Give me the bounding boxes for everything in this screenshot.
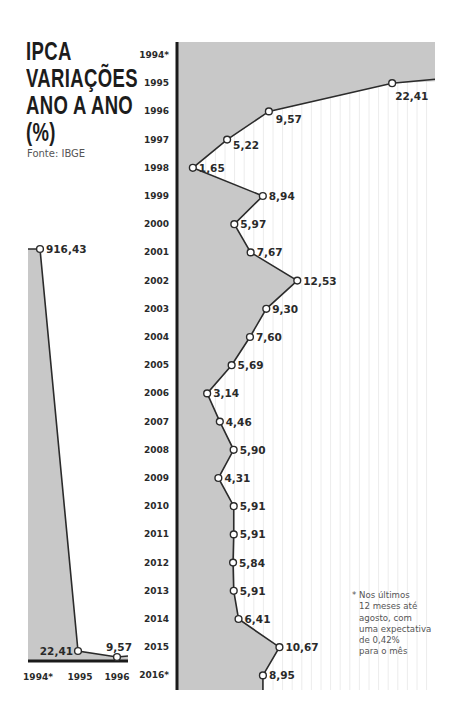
- year-label: 1998: [144, 163, 169, 173]
- value-label: 6,41: [245, 613, 271, 625]
- year-label: 2004: [144, 332, 169, 342]
- year-label: 1995: [144, 78, 169, 88]
- year-label: 2016*: [139, 670, 169, 680]
- footnote-line: agosto, com: [352, 613, 431, 624]
- value-label: 22,41: [395, 90, 428, 102]
- data-point: [216, 418, 223, 425]
- value-label: 5,84: [239, 557, 265, 569]
- data-point: [263, 305, 270, 312]
- year-label: 2009: [144, 473, 169, 483]
- value-label: 5,90: [240, 444, 266, 456]
- data-point: [235, 616, 242, 623]
- year-label: 2008: [144, 445, 169, 455]
- value-label: 9,57: [106, 641, 132, 653]
- value-label: 1,65: [199, 162, 225, 174]
- value-label: 5,97: [240, 218, 266, 230]
- data-point: [265, 108, 272, 115]
- year-label: 2014: [144, 614, 169, 624]
- data-point: [247, 334, 254, 341]
- data-point: [389, 80, 396, 87]
- data-point: [231, 221, 238, 228]
- year-label: 2011: [144, 529, 169, 539]
- value-label: 5,69: [238, 359, 264, 371]
- value-label: 4,31: [224, 472, 250, 484]
- value-label: 12,53: [303, 275, 336, 287]
- year-label: 2006: [144, 388, 169, 398]
- year-label: 1999: [144, 191, 169, 201]
- value-label: 5,91: [240, 585, 266, 597]
- value-label: 7,67: [257, 246, 283, 258]
- left-area-fill: [28, 249, 128, 661]
- year-label: 2010: [144, 501, 169, 511]
- data-point: [37, 246, 44, 253]
- footnote-line: para o mês: [352, 646, 431, 657]
- footnote-line: 12 meses até: [352, 601, 431, 612]
- data-point: [224, 136, 231, 143]
- data-point: [260, 672, 267, 679]
- year-label: 2005: [144, 360, 169, 370]
- year-label: 1994*: [139, 50, 169, 60]
- value-label: 5,91: [240, 500, 266, 512]
- value-label: 7,60: [256, 331, 282, 343]
- value-label: 5,91: [240, 528, 266, 540]
- year-label: 2015: [144, 642, 169, 652]
- data-point: [75, 648, 82, 655]
- year-label: 1996: [144, 106, 169, 116]
- value-label: 5,22: [233, 139, 259, 151]
- year-label: 2000: [144, 219, 169, 229]
- year-label: 1995: [67, 672, 92, 682]
- year-label: 2002: [144, 276, 169, 286]
- value-label: 8,95: [269, 669, 295, 681]
- year-label: 1997: [144, 135, 169, 145]
- data-point: [230, 587, 237, 594]
- value-label: 22,41: [40, 645, 73, 657]
- data-point: [230, 503, 237, 510]
- data-point: [259, 193, 266, 200]
- data-point: [230, 446, 237, 453]
- value-label: 9,57: [276, 113, 302, 125]
- year-label: 1996: [104, 672, 129, 682]
- data-point: [276, 644, 283, 651]
- year-label: 2013: [144, 586, 169, 596]
- data-point: [204, 390, 211, 397]
- year-label: 1994*: [23, 672, 53, 682]
- data-point: [230, 531, 237, 538]
- data-point: [215, 475, 222, 482]
- value-label: 4,46: [226, 416, 252, 428]
- value-label: 3,14: [213, 387, 239, 399]
- year-label: 2012: [144, 558, 169, 568]
- data-point: [189, 164, 196, 171]
- year-label: 2001: [144, 247, 169, 257]
- footnote-line: * Nos últimos: [352, 590, 431, 601]
- footnote-line: uma expectativa: [352, 624, 431, 635]
- value-label: 10,67: [285, 641, 318, 653]
- data-point: [114, 654, 121, 661]
- data-point: [247, 249, 254, 256]
- footnote-line: de 0,42%: [352, 635, 431, 646]
- year-label: 2007: [144, 417, 169, 427]
- value-label: 9,30: [272, 303, 298, 315]
- data-point: [230, 559, 237, 566]
- data-point: [228, 362, 235, 369]
- year-label: 2003: [144, 304, 169, 314]
- footnote: * Nos últimos 12 meses até agosto, com u…: [352, 590, 431, 658]
- value-label: 8,94: [269, 190, 295, 202]
- data-point: [294, 277, 301, 284]
- value-label: 916,43: [46, 243, 87, 255]
